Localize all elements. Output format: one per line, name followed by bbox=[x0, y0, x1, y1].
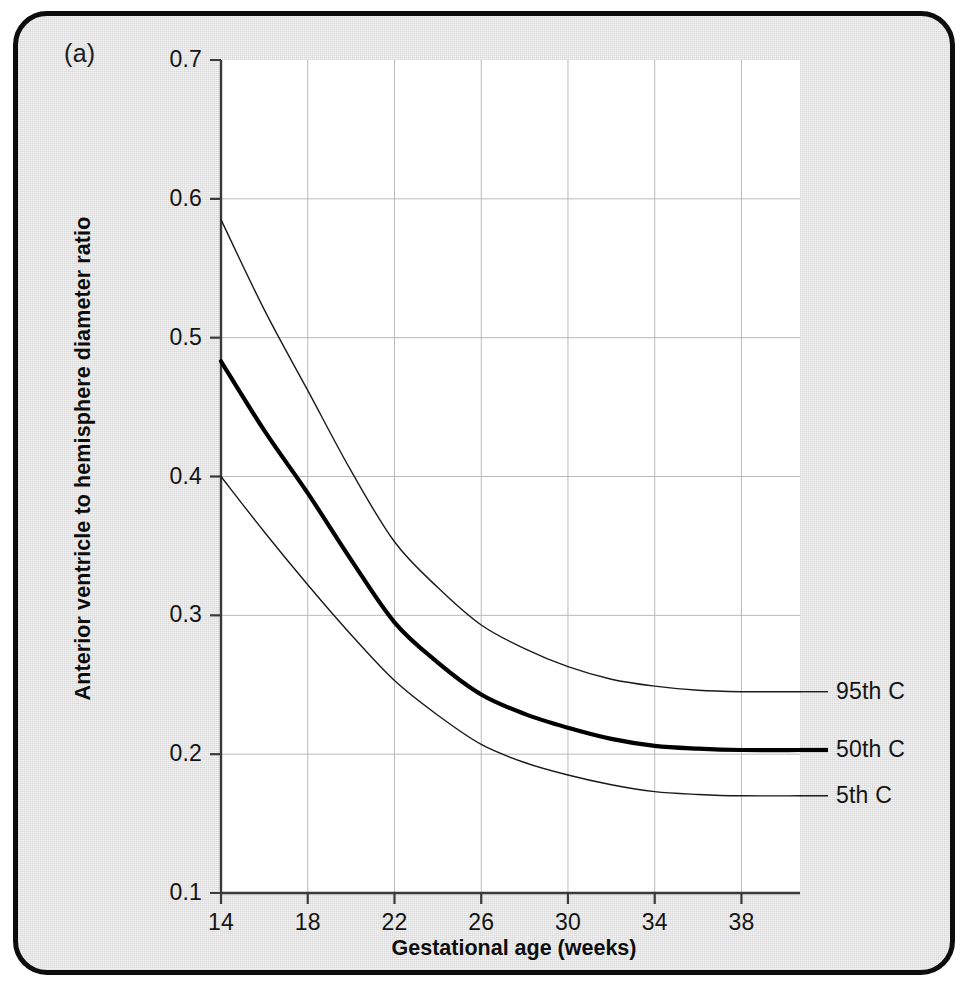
figure-frame: (a) 0.10.20.30.40.50.60.7 14182226303438… bbox=[13, 11, 955, 975]
chart-canvas bbox=[18, 16, 955, 975]
y-axis-title: Anterior ventricle to hemisphere diamete… bbox=[71, 209, 96, 709]
y-tick-label: 0.5 bbox=[140, 324, 202, 351]
x-tick-label: 14 bbox=[196, 909, 246, 936]
series-label-5th-c: 5th C bbox=[836, 782, 892, 809]
x-tick-label: 26 bbox=[456, 909, 506, 936]
x-tick-label: 30 bbox=[543, 909, 593, 936]
x-tick-label: 34 bbox=[630, 909, 680, 936]
y-tick-label: 0.3 bbox=[140, 601, 202, 628]
y-tick-label: 0.7 bbox=[140, 46, 202, 73]
x-axis-title: Gestational age (weeks) bbox=[214, 936, 814, 961]
x-tick-label: 18 bbox=[283, 909, 333, 936]
y-tick-label: 0.6 bbox=[140, 185, 202, 212]
y-tick-label: 0.2 bbox=[140, 740, 202, 767]
chart-area: 0.10.20.30.40.50.60.7 14182226303438 95t… bbox=[18, 16, 955, 975]
y-tick-label: 0.4 bbox=[140, 463, 202, 490]
series-label-50th-c: 50th C bbox=[836, 736, 905, 763]
series-label-95th-c: 95th C bbox=[836, 678, 905, 705]
x-tick-label: 22 bbox=[369, 909, 419, 936]
x-tick-label: 38 bbox=[716, 909, 766, 936]
y-tick-label: 0.1 bbox=[140, 879, 202, 906]
